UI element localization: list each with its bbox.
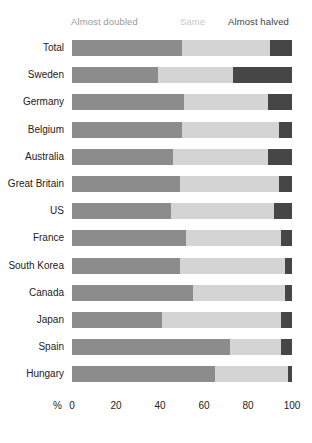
segment-almost-doubled: [72, 258, 180, 274]
stacked-bar: [72, 149, 292, 165]
segment-almost-halved: [270, 40, 292, 56]
segment-almost-halved: [288, 366, 292, 382]
chart-row: Belgium: [0, 122, 312, 148]
row-label-france: France: [0, 230, 64, 246]
segment-almost-doubled: [72, 149, 173, 165]
segment-same: [180, 176, 279, 192]
row-label-great-britain: Great Britain: [0, 176, 64, 192]
segment-almost-doubled: [72, 230, 186, 246]
chart-row: France: [0, 230, 312, 256]
segment-same: [162, 312, 281, 328]
segment-almost-halved: [274, 203, 292, 219]
segment-same: [171, 203, 274, 219]
segment-almost-halved: [281, 339, 292, 355]
segment-same: [182, 40, 270, 56]
row-label-total: Total: [0, 40, 64, 56]
segment-almost-doubled: [72, 312, 162, 328]
segment-almost-halved: [285, 258, 292, 274]
x-axis-tick: 0: [69, 400, 75, 411]
row-label-canada: Canada: [0, 285, 64, 301]
segment-almost-halved: [268, 149, 292, 165]
stacked-bar: [72, 94, 292, 110]
row-label-hungary: Hungary: [0, 366, 64, 382]
chart-row: Japan: [0, 312, 312, 338]
row-label-germany: Germany: [0, 94, 64, 110]
stacked-bar: [72, 203, 292, 219]
segment-almost-doubled: [72, 122, 182, 138]
segment-same: [230, 339, 281, 355]
legend-item-almost-halved: Almost halved: [228, 16, 289, 28]
segment-almost-doubled: [72, 366, 215, 382]
segment-almost-doubled: [72, 40, 182, 56]
segment-almost-doubled: [72, 67, 158, 83]
stacked-bar: [72, 122, 292, 138]
stacked-bar: [72, 285, 292, 301]
segment-almost-doubled: [72, 203, 171, 219]
row-label-us: US: [0, 203, 64, 219]
x-axis-tick: 20: [110, 400, 121, 411]
x-axis-tick: 100: [284, 400, 301, 411]
segment-almost-doubled: [72, 339, 230, 355]
segment-same: [180, 258, 286, 274]
row-label-spain: Spain: [0, 339, 64, 355]
stacked-bar: [72, 366, 292, 382]
stacked-bar-chart: Almost doubled Same Almost halved TotalS…: [0, 0, 312, 443]
segment-same: [184, 94, 268, 110]
stacked-bar: [72, 176, 292, 192]
segment-almost-halved: [285, 285, 292, 301]
legend-item-almost-doubled: Almost doubled: [71, 16, 138, 28]
segment-almost-halved: [268, 94, 292, 110]
chart-row: Total: [0, 40, 312, 66]
chart-row: Australia: [0, 149, 312, 175]
x-axis-tick: 80: [242, 400, 253, 411]
x-axis: % 020406080100: [0, 400, 312, 420]
segment-almost-halved: [233, 67, 292, 83]
x-axis-tick: 60: [198, 400, 209, 411]
segment-almost-halved: [281, 312, 292, 328]
segment-same: [186, 230, 281, 246]
stacked-bar: [72, 258, 292, 274]
chart-row: Spain: [0, 339, 312, 365]
stacked-bar: [72, 230, 292, 246]
segment-almost-doubled: [72, 94, 184, 110]
segment-same: [193, 285, 285, 301]
segment-almost-doubled: [72, 285, 193, 301]
legend-item-same: Same: [180, 16, 205, 28]
segment-same: [173, 149, 268, 165]
row-label-sweden: Sweden: [0, 67, 64, 83]
chart-row: South Korea: [0, 258, 312, 284]
row-label-belgium: Belgium: [0, 122, 64, 138]
chart-legend: Almost doubled Same Almost halved: [0, 16, 312, 32]
stacked-bar: [72, 339, 292, 355]
stacked-bar: [72, 40, 292, 56]
segment-almost-doubled: [72, 176, 180, 192]
segment-same: [158, 67, 233, 83]
segment-almost-halved: [279, 176, 292, 192]
row-label-japan: Japan: [0, 312, 64, 328]
chart-row: Canada: [0, 285, 312, 311]
plot-area: TotalSwedenGermanyBelgiumAustraliaGreat …: [0, 40, 312, 396]
segment-almost-halved: [279, 122, 292, 138]
axis-unit-label: %: [48, 400, 62, 411]
chart-row: Sweden: [0, 67, 312, 93]
row-label-south-korea: South Korea: [0, 258, 64, 274]
stacked-bar: [72, 312, 292, 328]
chart-row: Germany: [0, 94, 312, 120]
chart-row: Hungary: [0, 366, 312, 392]
row-label-australia: Australia: [0, 149, 64, 165]
chart-row: Great Britain: [0, 176, 312, 202]
x-axis-tick: 40: [154, 400, 165, 411]
segment-almost-halved: [281, 230, 292, 246]
stacked-bar: [72, 67, 292, 83]
segment-same: [182, 122, 279, 138]
segment-same: [215, 366, 288, 382]
chart-row: US: [0, 203, 312, 229]
